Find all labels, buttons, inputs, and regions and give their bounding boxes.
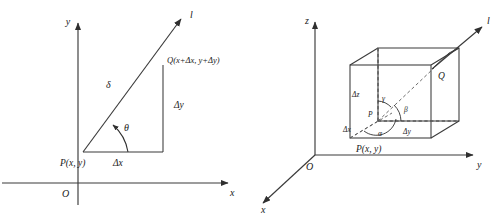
ray-line [83, 19, 181, 152]
delta-x-label: Δx [112, 158, 124, 168]
panel-two-dimensional: y x O l P(x, y) Q(x+Δx, y+Δy) δ Δx Δy θ [0, 0, 251, 218]
delta-label: δ [106, 79, 111, 90]
point-p-label: P(x, y) [59, 158, 85, 169]
cube-edge-bottom-right [431, 121, 459, 138]
delta-y-label: Δy [173, 100, 185, 110]
theta-label: θ [124, 122, 129, 133]
three-dimensional-diagram: z y x O l P Q P(x, y) Δz Δx Δy γ β α [251, 0, 502, 218]
figure-root: y x O l P(x, y) Q(x+Δx, y+Δy) δ Δx Δy θ [0, 0, 502, 218]
delta-z-label: Δz [351, 90, 359, 99]
x-axis-label: x [260, 204, 266, 215]
delta-y-label: Δy [402, 127, 411, 136]
two-dimensional-diagram: y x O l P(x, y) Q(x+Δx, y+Δy) δ Δx Δy θ [0, 0, 251, 218]
cube-edge-top-left [350, 48, 378, 65]
gamma-label: γ [382, 94, 386, 103]
beta-angle-arc [394, 105, 401, 121]
origin-label: O [306, 161, 313, 172]
point-p-label: P [367, 110, 373, 119]
alpha-label: α [378, 129, 383, 138]
origin-label: O [62, 188, 69, 199]
cube-front-face [350, 65, 431, 138]
ray-label: l [487, 15, 490, 26]
ray-label: l [190, 9, 193, 20]
point-p-coordinate-label: P(x, y) [355, 144, 381, 155]
y-axis-label: y [65, 16, 71, 27]
z-axis-label: z [304, 15, 309, 26]
x-axis-label: x [229, 187, 235, 198]
beta-label: β [403, 105, 408, 114]
panel-three-dimensional: z y x O l P Q P(x, y) Δz Δx Δy γ β α [251, 0, 502, 218]
y-axis-label: y [476, 159, 482, 170]
cube-back-face [378, 48, 459, 121]
point-q-label: Q(x+Δx, y+Δy) [167, 55, 220, 65]
point-q-label: Q [438, 71, 445, 81]
delta-x-label: Δx [342, 125, 351, 134]
